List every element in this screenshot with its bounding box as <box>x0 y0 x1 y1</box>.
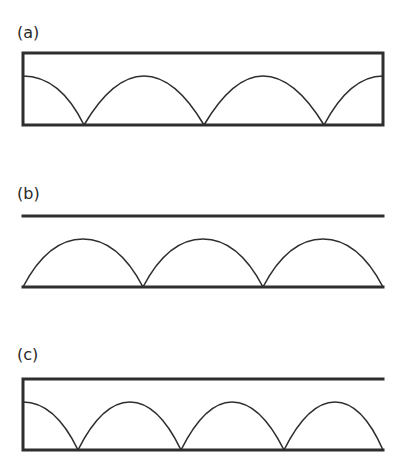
arcs-a <box>23 76 383 125</box>
box-a <box>23 53 383 125</box>
frame-c <box>23 379 383 450</box>
panel-a <box>23 53 383 125</box>
panel-b <box>23 216 383 287</box>
diagram-canvas <box>0 0 402 469</box>
arcs-b <box>23 239 383 287</box>
panel-c <box>23 379 383 450</box>
arcs-c <box>23 402 383 450</box>
